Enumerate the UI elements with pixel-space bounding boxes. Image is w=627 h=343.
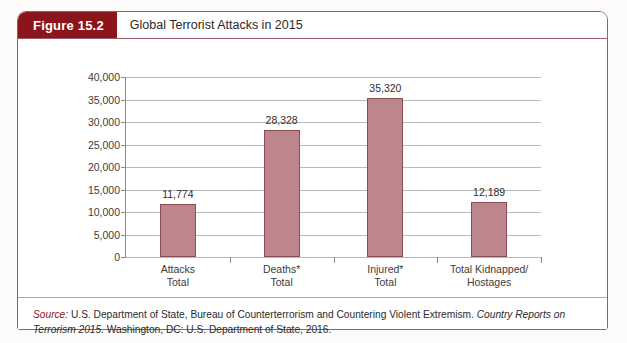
x-axis-tick-label-line: Deaths*: [222, 263, 342, 276]
x-axis-tick-label-line: Injured*: [325, 263, 445, 276]
bar: [160, 204, 196, 257]
y-axis-tick-label: 0: [62, 251, 120, 263]
gridline: [126, 122, 541, 123]
figure-title: Global Terrorist Attacks in 2015: [117, 12, 607, 38]
bar: [471, 202, 507, 257]
x-axis-category-label: Total Kidnapped/Hostages: [429, 263, 549, 289]
x-axis-tick-label-line: Hostages: [429, 276, 549, 289]
y-axis-tick-mark: [121, 145, 126, 146]
y-axis-tick-mark: [121, 167, 126, 168]
bar-value-label: 12,189: [454, 186, 524, 198]
source-text-part-1: U.S. Department of State, Bureau of Coun…: [68, 309, 477, 320]
source-text-part-2: Washington, DC: U.S. Department of State…: [104, 324, 331, 335]
gridline: [126, 100, 541, 101]
x-axis-tick-label-line: Total: [325, 276, 445, 289]
y-axis-tick-mark: [121, 100, 126, 101]
y-axis-tick-label: 15,000: [62, 184, 120, 196]
gridline: [126, 167, 541, 168]
y-axis-tick-mark: [121, 257, 126, 258]
bar-value-label: 11,774: [143, 188, 213, 200]
y-axis-tick-label: 40,000: [62, 71, 120, 83]
y-axis-tick-labels: 05,00010,00015,00020,00025,00030,00035,0…: [58, 39, 120, 297]
y-axis-tick-mark: [121, 122, 126, 123]
y-axis-tick-mark: [121, 212, 126, 213]
y-axis-tick-label: 25,000: [62, 139, 120, 151]
plot-area: [126, 77, 541, 257]
source-label: Source:: [33, 309, 68, 320]
figure-card: Figure 15.2 Global Terrorist Attacks in …: [17, 11, 608, 330]
y-axis-tick-label: 5,000: [62, 229, 120, 241]
x-axis-category-label: Deaths*Total: [222, 263, 342, 289]
figure-header: Figure 15.2 Global Terrorist Attacks in …: [18, 12, 607, 39]
y-axis-tick-label: 30,000: [62, 116, 120, 128]
bar-chart: 05,00010,00015,00020,00025,00030,00035,0…: [18, 39, 607, 297]
bar: [367, 98, 403, 257]
x-axis-tick-label-line: Total: [118, 276, 238, 289]
bar-value-label: 28,328: [247, 114, 317, 126]
bar: [264, 130, 300, 257]
y-axis-tick-mark: [121, 190, 126, 191]
x-axis-tick-label-line: Attacks: [118, 263, 238, 276]
gridline: [126, 77, 541, 78]
y-axis-tick-mark: [121, 235, 126, 236]
bar-value-label: 35,320: [350, 82, 420, 94]
x-axis-category-label: Injured*Total: [325, 263, 445, 289]
x-axis-tick-label-line: Total Kidnapped/: [429, 263, 549, 276]
y-axis-tick-label: 20,000: [62, 161, 120, 173]
x-axis-category-label: AttacksTotal: [118, 263, 238, 289]
x-axis-tick-label-line: Total: [222, 276, 342, 289]
y-axis-tick-label: 10,000: [62, 206, 120, 218]
gridline: [126, 145, 541, 146]
y-axis-tick-label: 35,000: [62, 94, 120, 106]
chart-body: 05,00010,00015,00020,00025,00030,00035,0…: [18, 39, 607, 329]
source-divider: [18, 297, 607, 298]
source-note: Source: U.S. Department of State, Bureau…: [33, 307, 593, 337]
y-axis-tick-mark: [121, 77, 126, 78]
figure-number-badge: Figure 15.2: [18, 12, 117, 38]
